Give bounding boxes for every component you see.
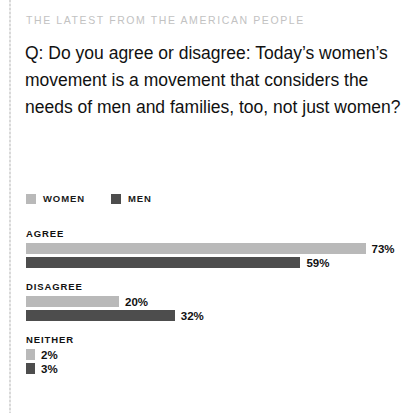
legend-swatch-women	[26, 194, 36, 204]
bar-women	[26, 349, 35, 360]
bar-group-label: NEITHER	[26, 334, 406, 345]
bar-group-label: AGREE	[26, 228, 406, 239]
bar-row: 73%	[26, 243, 406, 254]
legend-item-women: WOMEN	[26, 193, 85, 204]
bar-value-label: 2%	[41, 349, 58, 361]
bar-value-label: 3%	[41, 363, 58, 375]
poll-question: Q: Do you agree or disagree: Today’s wom…	[25, 40, 403, 121]
legend-swatch-men	[111, 194, 121, 204]
bar-women	[26, 296, 119, 307]
bar-group-neither: NEITHER 2% 3%	[26, 334, 406, 374]
bar-group-label: DISAGREE	[26, 281, 406, 292]
bar-value-label: 32%	[181, 310, 204, 322]
legend-item-men: MEN	[111, 193, 152, 204]
kicker-heading: THE LATEST FROM THE AMERICAN PEOPLE	[26, 14, 305, 26]
chart-legend: WOMEN MEN	[26, 193, 152, 204]
bar-men	[26, 257, 300, 268]
poll-graphic: THE LATEST FROM THE AMERICAN PEOPLE Q: D…	[0, 0, 416, 413]
bar-row: 59%	[26, 257, 406, 268]
legend-label-men: MEN	[128, 193, 152, 204]
bar-value-label: 20%	[125, 296, 148, 308]
bar-row: 3%	[26, 363, 406, 374]
bar-row: 32%	[26, 310, 406, 321]
legend-label-women: WOMEN	[43, 193, 85, 204]
bar-group-agree: AGREE 73% 59%	[26, 228, 406, 268]
bar-men	[26, 363, 35, 374]
bar-row: 20%	[26, 296, 406, 307]
bar-chart-groups: AGREE 73% 59% DISAGREE 20% 32% NEITHER	[26, 228, 406, 387]
bar-women	[26, 243, 366, 254]
bar-group-disagree: DISAGREE 20% 32%	[26, 281, 406, 321]
bar-men	[26, 310, 175, 321]
bar-value-label: 59%	[306, 257, 329, 269]
bar-value-label: 73%	[372, 243, 395, 255]
bar-row: 2%	[26, 349, 406, 360]
